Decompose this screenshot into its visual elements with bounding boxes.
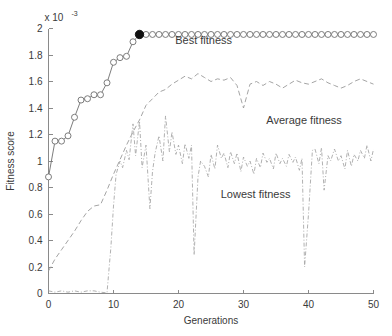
figure-container: 0102030405000.20.40.60.811.21.41.61.82x …: [0, 0, 392, 336]
axes: [49, 29, 374, 294]
best-fitness-marker: [234, 31, 240, 37]
best-fitness-marker: [52, 138, 58, 144]
best-fitness-marker: [85, 96, 91, 102]
best-fitness-marker: [254, 31, 260, 37]
y-tick-label: 1.6: [29, 76, 43, 87]
best-fitness-marker: [72, 114, 78, 120]
best-fitness-marker: [98, 92, 104, 98]
y-tick-label: 0.8: [29, 182, 43, 193]
best-fitness-marker: [91, 92, 97, 98]
y-tick-label: 2: [37, 23, 43, 34]
x-axis-title: Generations: [184, 315, 238, 326]
x-tick-label: 0: [46, 299, 52, 310]
best-fitness-marker: [163, 31, 169, 37]
y-axis-exponent-power: -3: [72, 10, 78, 17]
data-markers: [46, 30, 377, 180]
best-fitness-marker: [364, 31, 370, 37]
best-fitness-marker: [351, 31, 357, 37]
best-fitness-marker: [299, 31, 305, 37]
y-axis-exponent-label: x 10: [45, 12, 64, 23]
axis-spine: [49, 29, 374, 294]
best-fitness-marker: [260, 31, 266, 37]
y-tick-label: 0.6: [29, 209, 43, 220]
best-fitness-marker: [78, 97, 84, 103]
best-fitness-marker: [306, 31, 312, 37]
best-fitness-marker: [111, 59, 117, 65]
y-tick-label: 1: [37, 156, 43, 167]
best-fitness-marker: [267, 31, 273, 37]
best-fitness-marker: [150, 31, 156, 37]
best-fitness-highlight-marker: [135, 30, 143, 38]
y-tick-label: 1.2: [29, 129, 43, 140]
y-tick-label: 0.4: [29, 235, 43, 246]
y-tick-label: 1.8: [29, 50, 43, 61]
best-fitness-marker: [325, 31, 331, 37]
best-fitness-marker: [312, 31, 318, 37]
best-fitness-marker: [273, 31, 279, 37]
best-fitness-marker: [241, 31, 247, 37]
annotation-average-fitness: Average fitness: [266, 114, 342, 126]
best-fitness-marker: [124, 53, 130, 59]
y-axis-title: Fitness score: [5, 131, 16, 191]
best-fitness-marker: [117, 55, 123, 61]
best-fitness-marker: [286, 31, 292, 37]
best-fitness-marker: [104, 80, 110, 86]
series-annotations: Best fitnessAverage fitnessLowest fitnes…: [175, 34, 342, 200]
best-fitness-marker: [371, 31, 377, 37]
best-fitness-marker: [280, 31, 286, 37]
y-tick-label: 0.2: [29, 262, 43, 273]
x-tick-label: 30: [238, 299, 250, 310]
best-fitness-marker: [65, 133, 71, 139]
data-series: [49, 34, 374, 292]
best-fitness-marker: [293, 31, 299, 37]
best-fitness-marker: [345, 31, 351, 37]
fitness-chart: 0102030405000.20.40.60.811.21.41.61.82x …: [0, 0, 392, 336]
x-tick-label: 50: [368, 299, 380, 310]
series-line-average-fitness: [49, 74, 374, 271]
best-fitness-marker: [156, 31, 162, 37]
best-fitness-marker: [46, 174, 52, 180]
x-tick-label: 40: [303, 299, 315, 310]
x-tick-label: 20: [173, 299, 185, 310]
best-fitness-marker: [169, 31, 175, 37]
x-tick-label: 10: [108, 299, 120, 310]
best-fitness-marker: [59, 138, 65, 144]
y-tick-label: 0: [37, 288, 43, 299]
best-fitness-marker: [130, 39, 136, 45]
annotation-lowest-fitness: Lowest fitness: [221, 188, 291, 200]
best-fitness-marker: [358, 31, 364, 37]
annotation-best-fitness: Best fitness: [175, 34, 232, 46]
best-fitness-marker: [247, 31, 253, 37]
best-fitness-marker: [338, 31, 344, 37]
best-fitness-marker: [319, 31, 325, 37]
best-fitness-marker: [332, 31, 338, 37]
series-line-lowest-fitness: [49, 116, 374, 293]
y-tick-label: 1.4: [29, 103, 43, 114]
